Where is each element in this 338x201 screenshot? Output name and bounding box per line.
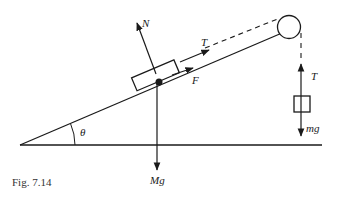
angle-label: θ bbox=[80, 126, 86, 138]
tension-arrow-block bbox=[180, 50, 209, 62]
weight-label-hanging: mg bbox=[306, 122, 320, 134]
inclined-plane-diagram: θ N T F Mg T mg Fig. 7.14 bbox=[0, 0, 338, 201]
tension-label-hanging: T bbox=[311, 70, 318, 82]
weight-label-block: Mg bbox=[149, 174, 165, 186]
normal-force-label: N bbox=[141, 17, 150, 29]
incline-surface bbox=[20, 33, 282, 145]
friction-label: F bbox=[191, 74, 199, 86]
figure-caption: Fig. 7.14 bbox=[12, 176, 52, 188]
normal-force-arrow bbox=[137, 23, 156, 74]
pulley bbox=[278, 16, 301, 39]
angle-arc bbox=[71, 124, 76, 146]
string-incline bbox=[205, 18, 280, 48]
hanging-mass bbox=[294, 96, 310, 112]
tension-label-block: T bbox=[201, 36, 208, 48]
